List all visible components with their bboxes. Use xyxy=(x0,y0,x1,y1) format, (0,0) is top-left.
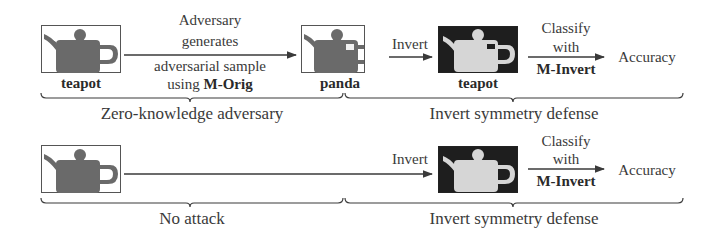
adversarial-image xyxy=(301,25,365,73)
invert-label-row1: Invert xyxy=(385,36,435,53)
brace-invert-defense-row2 xyxy=(345,198,683,207)
caption-invert-defense-row2: Invert symmetry defense xyxy=(345,209,683,228)
attack-text-line2: generates xyxy=(120,33,300,50)
brace-invert-defense-row1 xyxy=(345,93,683,102)
attack-text-line4: using M-Orig xyxy=(120,76,300,93)
label-teapot-inverted: teapot xyxy=(438,75,518,92)
inverted-teapot-icon-row2 xyxy=(439,147,519,194)
result-accuracy-row1: Accuracy xyxy=(610,49,684,66)
caption-invert-defense-row1: Invert symmetry defense xyxy=(345,104,683,123)
inverted-image-row2 xyxy=(438,146,518,193)
classify-text-line2-row2: with xyxy=(526,151,606,168)
brace-no-attack xyxy=(41,198,343,207)
classify-text-line2-row1: with xyxy=(526,39,606,56)
attack-text-using: using xyxy=(167,76,203,92)
caption-no-attack: No attack xyxy=(41,209,343,228)
attack-text-line3: adversarial sample xyxy=(120,58,300,75)
teapot-original-image-row2 xyxy=(41,145,121,193)
result-accuracy-row2: Accuracy xyxy=(610,162,684,179)
classify-model-row1: M-Invert xyxy=(526,61,606,78)
teapot-icon xyxy=(42,26,122,74)
inverted-image-row1 xyxy=(438,26,518,73)
inverted-teapot-icon xyxy=(439,27,519,74)
teapot-icon-row2 xyxy=(42,146,122,194)
teapot-original-image xyxy=(41,25,121,73)
adversarial-teapot-icon xyxy=(302,26,366,74)
caption-zero-knowledge-adversary: Zero-knowledge adversary xyxy=(41,104,343,123)
invert-label-row2: Invert xyxy=(385,151,435,168)
label-panda: panda xyxy=(305,75,375,92)
label-teapot-original: teapot xyxy=(41,75,121,92)
classify-text-line1-row2: Classify xyxy=(526,133,606,150)
brace-zero-knowledge xyxy=(41,93,343,102)
classify-model-row2: M-Invert xyxy=(526,173,606,190)
attack-text-line1: Adversary xyxy=(120,12,300,29)
classify-text-line1-row1: Classify xyxy=(526,20,606,37)
attack-model-name: M-Orig xyxy=(204,76,253,92)
